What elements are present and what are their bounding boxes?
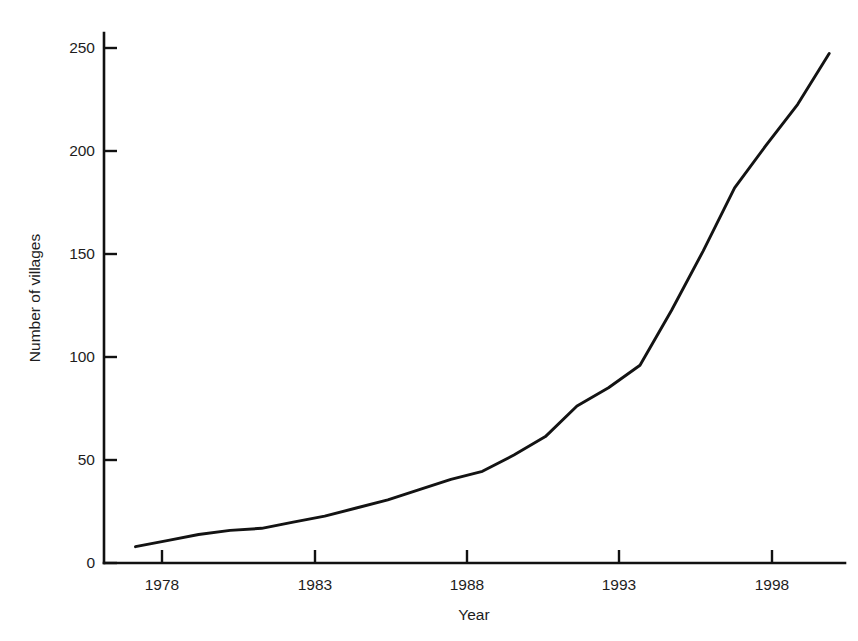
x-tick-label-1983: 1983 (298, 576, 332, 593)
y-tick-label-50: 50 (78, 451, 96, 468)
y-axis-title: Number of villages (26, 234, 43, 363)
x-tick-label-1993: 1993 (602, 576, 636, 593)
x-tick-label-1998: 1998 (755, 576, 789, 593)
x-axis-title: Year (458, 606, 489, 623)
x-tick-label-1978: 1978 (145, 576, 179, 593)
y-tick-marks (104, 48, 117, 563)
y-tick-label-200: 200 (69, 142, 95, 159)
y-tick-label-0: 0 (86, 554, 95, 571)
data-series-line (136, 53, 830, 546)
x-tick-marks (162, 550, 772, 563)
chart-figure: 250 200 150 100 50 0 1978 1983 1988 1993… (0, 0, 858, 641)
y-tick-label-150: 150 (69, 245, 95, 262)
y-tick-label-250: 250 (69, 39, 95, 56)
line-chart-svg: 250 200 150 100 50 0 1978 1983 1988 1993… (0, 0, 858, 641)
x-tick-label-1988: 1988 (450, 576, 484, 593)
y-tick-label-100: 100 (69, 348, 95, 365)
